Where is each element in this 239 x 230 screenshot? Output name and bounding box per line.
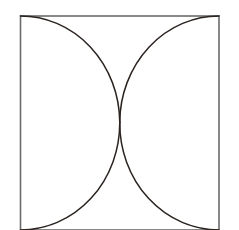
quatrefoil-diagram [0,0,239,230]
geometry-figure [0,0,239,230]
